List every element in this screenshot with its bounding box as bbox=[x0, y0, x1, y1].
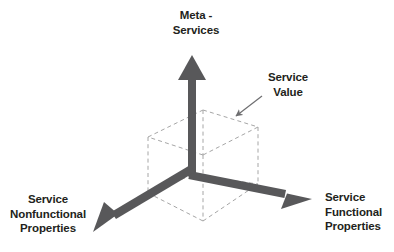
meta-services-axis-arrowhead bbox=[178, 55, 206, 80]
diagram-canvas: Meta - Services Service Value Service No… bbox=[0, 0, 394, 252]
label-service-nonfunctional-properties: Service Nonfunctional Properties bbox=[4, 192, 92, 236]
label-service-nonfunctional-line2: Nonfunctional bbox=[4, 207, 92, 222]
service-value-cube bbox=[148, 110, 258, 221]
service-nonfunctional-axis-arrowhead bbox=[93, 202, 118, 232]
service-value-leader bbox=[236, 96, 262, 116]
label-service-nonfunctional-line1: Service bbox=[4, 192, 92, 207]
label-service-functional-line1: Service bbox=[325, 190, 394, 205]
label-meta-services: Meta - Services bbox=[151, 8, 241, 37]
cube-edge-top-back-right bbox=[203, 110, 258, 127]
label-service-value-line2: Value bbox=[248, 85, 328, 100]
label-meta-services-line2: Services bbox=[151, 23, 241, 38]
label-service-functional-properties: Service Functional Properties bbox=[325, 190, 394, 234]
label-service-functional-line3: Properties bbox=[325, 219, 394, 234]
service-functional-axis-arrowhead bbox=[281, 194, 312, 210]
cube-edge-top-right-front bbox=[203, 127, 258, 155]
label-service-nonfunctional-line3: Properties bbox=[4, 221, 92, 236]
cube-edge-bottom-left-front bbox=[148, 193, 203, 221]
label-service-value: Service Value bbox=[248, 70, 328, 99]
label-service-functional-line2: Functional bbox=[325, 205, 394, 220]
label-meta-services-line1: Meta - bbox=[151, 8, 241, 23]
label-service-value-line1: Service bbox=[248, 70, 328, 85]
meta-services-axis-shaft bbox=[188, 74, 196, 176]
